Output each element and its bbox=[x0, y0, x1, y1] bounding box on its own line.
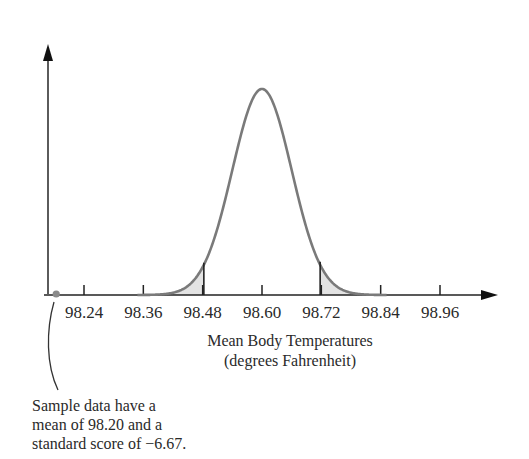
x-axis-arrow-icon bbox=[481, 290, 498, 300]
annotation-leader-line bbox=[48, 302, 58, 390]
normal-curve-chart: 98.2498.3698.4898.6098.7298.8498.96 Mean… bbox=[0, 0, 529, 459]
y-axis-arrow-icon bbox=[43, 44, 53, 61]
annotation-line-1: Sample data have a bbox=[32, 396, 272, 415]
x-axis-ticks bbox=[84, 285, 440, 295]
sample-annotation: Sample data have a mean of 98.20 and a s… bbox=[32, 396, 272, 453]
annotation-line-2: mean of 98.20 and a bbox=[32, 415, 272, 434]
normal-curve bbox=[137, 89, 386, 295]
x-tick-label: 98.60 bbox=[243, 303, 281, 322]
x-axis-title: Mean Body Temperatures bbox=[207, 332, 373, 350]
x-tick-label: 98.72 bbox=[302, 303, 340, 322]
x-tick-label: 98.24 bbox=[65, 303, 104, 322]
x-tick-label: 98.48 bbox=[184, 303, 222, 322]
annotation-line-3: standard score of −6.67. bbox=[32, 434, 272, 453]
x-tick-label: 98.36 bbox=[124, 303, 162, 322]
sample-mean-point bbox=[53, 290, 60, 297]
x-axis-subtitle: (degrees Fahrenheit) bbox=[224, 352, 356, 370]
x-axis-tick-labels: 98.2498.3698.4898.6098.7298.8498.96 bbox=[65, 303, 459, 322]
x-tick-label: 98.96 bbox=[421, 303, 459, 322]
x-tick-label: 98.84 bbox=[362, 303, 401, 322]
